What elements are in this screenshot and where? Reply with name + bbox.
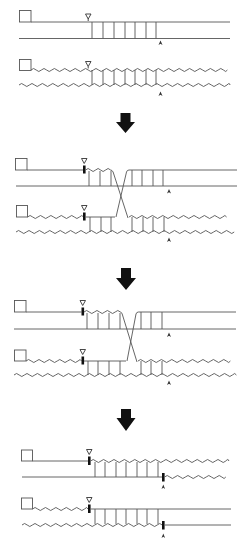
duplex-a bbox=[22, 450, 229, 490]
end-box bbox=[22, 498, 33, 509]
end-box bbox=[17, 206, 28, 218]
top-strand-right bbox=[138, 360, 230, 363]
bottom-strand bbox=[16, 231, 234, 234]
stage-1 bbox=[19, 11, 230, 97]
site-arrowhead-icon bbox=[167, 189, 171, 194]
site-triangle-icon bbox=[80, 301, 86, 306]
stage-3 bbox=[14, 301, 236, 386]
base-pair-rungs bbox=[92, 70, 156, 85]
base-pair-rungs bbox=[88, 361, 162, 375]
end-box bbox=[22, 450, 33, 461]
stage-2 bbox=[16, 159, 238, 243]
stage-4 bbox=[22, 450, 232, 539]
top-strand bbox=[31, 69, 227, 72]
site-arrowhead-icon bbox=[162, 485, 166, 490]
end-box bbox=[20, 60, 32, 71]
top-strand-right bbox=[127, 312, 236, 361]
cut-bar bbox=[88, 505, 91, 514]
end-box bbox=[15, 350, 27, 361]
site-arrowhead-icon bbox=[167, 238, 171, 243]
base-pair-rungs bbox=[90, 217, 164, 232]
duplex-b bbox=[19, 60, 230, 97]
end-box bbox=[15, 301, 27, 313]
site-triangle-icon bbox=[86, 62, 92, 69]
bottom-strand bbox=[14, 374, 236, 377]
site-triangle-icon bbox=[80, 350, 86, 355]
base-pair-rungs bbox=[95, 509, 158, 524]
top-strand-right bbox=[129, 216, 227, 219]
base-pair-rungs bbox=[92, 22, 156, 39]
cut-bar bbox=[83, 213, 86, 221]
site-arrowhead-icon bbox=[162, 534, 166, 539]
top-strand-right bbox=[116, 170, 237, 217]
top-strand-left bbox=[26, 360, 82, 363]
duplex-a bbox=[14, 301, 236, 363]
cut-bar bbox=[162, 473, 165, 482]
duplex-b bbox=[14, 350, 236, 386]
site-arrowhead-icon bbox=[159, 92, 163, 97]
cut-bar bbox=[82, 308, 85, 316]
site-triangle-icon bbox=[86, 14, 92, 21]
site-triangle-icon bbox=[87, 450, 93, 455]
site-arrowhead-icon bbox=[159, 41, 163, 46]
strand-exchange-diagram bbox=[0, 0, 247, 550]
site-triangle-icon bbox=[82, 206, 88, 211]
base-pair-rungs bbox=[95, 462, 158, 477]
duplex-a bbox=[19, 11, 230, 46]
top-strand-left bbox=[28, 216, 84, 219]
cut-bar bbox=[88, 457, 91, 466]
duplex-a bbox=[16, 159, 238, 219]
end-box bbox=[16, 159, 28, 171]
cut-bar bbox=[162, 521, 165, 530]
site-triangle-icon bbox=[82, 159, 88, 164]
top-strand-right bbox=[91, 460, 229, 463]
down-arrow-icon bbox=[117, 409, 136, 431]
invading-strand bbox=[84, 311, 137, 363]
end-box bbox=[20, 11, 32, 23]
cut-bar bbox=[83, 166, 86, 174]
duplex-b bbox=[22, 498, 232, 539]
top-strand-left bbox=[33, 508, 88, 511]
site-arrowhead-icon bbox=[167, 381, 171, 386]
site-arrowhead-icon bbox=[167, 333, 171, 338]
down-arrow-icon bbox=[116, 268, 136, 290]
bottom-strand bbox=[19, 84, 230, 87]
duplex-b bbox=[16, 206, 234, 243]
down-arrow-icon bbox=[116, 113, 135, 133]
site-triangle-icon bbox=[87, 498, 93, 503]
bottom-strand-right bbox=[165, 476, 226, 479]
cut-bar bbox=[82, 357, 85, 365]
bottom-strand-left bbox=[22, 524, 162, 527]
